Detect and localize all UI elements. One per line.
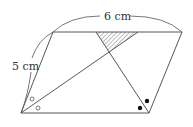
open-circle-marker [30,97,34,101]
bisector-right [96,32,149,113]
parallelogram [21,32,182,113]
parallelogram-diagram: 6 cm 5 cm [0,0,193,127]
open-circle-marker [36,106,40,110]
left-side-label: 5 cm [12,60,40,73]
filled-circle-marker [145,99,149,103]
filled-circle-marker [138,106,142,110]
top-side-label: 6 cm [104,10,132,23]
